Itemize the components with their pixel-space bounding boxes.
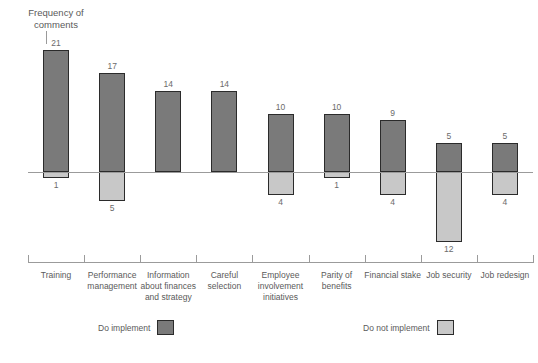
legend-item-do-implement: Do implement bbox=[98, 320, 174, 335]
bar-value-do-implement: 9 bbox=[371, 108, 415, 118]
bar-group[interactable]: 104 bbox=[268, 0, 294, 270]
bar-value-do-implement: 5 bbox=[427, 131, 471, 141]
bar-do-implement[interactable] bbox=[324, 114, 350, 172]
bar-group[interactable]: 512 bbox=[436, 0, 462, 270]
bar-value-do-not-implement: 1 bbox=[34, 180, 78, 190]
bar-value-do-not-implement: 4 bbox=[371, 197, 415, 207]
axis-tick bbox=[365, 255, 366, 263]
category-label: Job redesign bbox=[474, 270, 536, 281]
axis-tick bbox=[84, 255, 85, 263]
bar-do-implement[interactable] bbox=[492, 143, 518, 172]
bar-do-implement[interactable] bbox=[155, 91, 181, 172]
bar-group[interactable]: 14 bbox=[211, 0, 237, 270]
bar-value-do-not-implement: 4 bbox=[483, 197, 527, 207]
bar-value-do-not-implement: 4 bbox=[259, 197, 303, 207]
legend-swatch-do-not-implement bbox=[437, 320, 454, 335]
bar-do-not-implement[interactable] bbox=[268, 172, 294, 195]
category-label: Performance management bbox=[81, 270, 143, 292]
bar-group[interactable]: 175 bbox=[99, 0, 125, 270]
plot-area: 21117514141041019451254 TrainingPerforma… bbox=[0, 0, 538, 270]
axis-tick bbox=[252, 255, 253, 263]
bar-do-implement[interactable] bbox=[268, 114, 294, 172]
category-label: Training bbox=[25, 270, 87, 281]
axis-tick bbox=[28, 255, 29, 263]
category-label: Parity of benefits bbox=[306, 270, 368, 292]
bar-value-do-implement: 21 bbox=[34, 38, 78, 48]
bar-value-do-implement: 10 bbox=[315, 102, 359, 112]
category-label: Job security bbox=[418, 270, 480, 281]
bar-value-do-implement: 14 bbox=[202, 79, 246, 89]
axis-tick bbox=[477, 255, 478, 263]
legend-swatch-do-implement bbox=[157, 320, 174, 335]
axis-tick bbox=[309, 255, 310, 263]
bar-group[interactable]: 54 bbox=[492, 0, 518, 270]
bar-do-not-implement[interactable] bbox=[380, 172, 406, 195]
bar-group[interactable]: 94 bbox=[380, 0, 406, 270]
axis-tick bbox=[421, 255, 422, 263]
axis-tick bbox=[196, 255, 197, 263]
bar-do-implement[interactable] bbox=[436, 143, 462, 172]
bar-value-do-implement: 14 bbox=[146, 79, 190, 89]
category-label: Employee involvement initiatives bbox=[250, 270, 312, 303]
axis-tick bbox=[140, 255, 141, 263]
bar-group[interactable]: 101 bbox=[324, 0, 350, 270]
legend-label-do-implement: Do implement bbox=[98, 323, 150, 333]
bar-value-do-not-implement: 1 bbox=[315, 180, 359, 190]
bar-do-not-implement[interactable] bbox=[492, 172, 518, 195]
axis-tick bbox=[533, 255, 534, 263]
category-axis-line bbox=[28, 262, 533, 263]
bar-do-implement[interactable] bbox=[380, 120, 406, 172]
bar-do-implement[interactable] bbox=[43, 50, 69, 172]
bar-value-do-not-implement: 5 bbox=[90, 203, 134, 213]
bar-group[interactable]: 211 bbox=[43, 0, 69, 270]
bar-do-implement[interactable] bbox=[99, 73, 125, 172]
category-label: Financial stake bbox=[362, 270, 424, 281]
category-label: Information about finances and strategy bbox=[137, 270, 199, 303]
legend-item-do-not-implement: Do not implement bbox=[363, 320, 454, 335]
legend-label-do-not-implement: Do not implement bbox=[363, 323, 430, 333]
bar-group[interactable]: 14 bbox=[155, 0, 181, 270]
bar-do-not-implement[interactable] bbox=[99, 172, 125, 201]
bar-value-do-implement: 17 bbox=[90, 61, 134, 71]
bar-value-do-implement: 5 bbox=[483, 131, 527, 141]
category-label: Careful selection bbox=[193, 270, 255, 292]
zero-baseline bbox=[28, 172, 533, 173]
bar-value-do-implement: 10 bbox=[259, 102, 303, 112]
chart-canvas: Frequency of comments 211175141410410194… bbox=[0, 0, 538, 363]
bar-value-do-not-implement: 12 bbox=[427, 244, 471, 254]
bar-do-implement[interactable] bbox=[211, 91, 237, 172]
bar-do-not-implement[interactable] bbox=[436, 172, 462, 242]
